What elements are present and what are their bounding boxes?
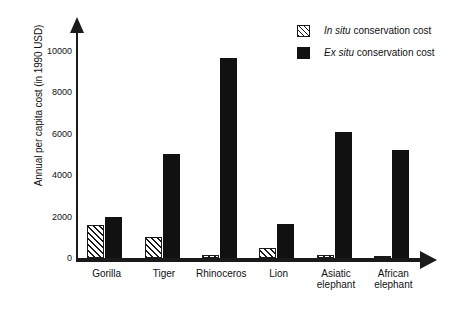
bar-group	[145, 30, 180, 258]
bar-ex-situ	[105, 217, 122, 258]
hatched-swatch-icon	[297, 25, 310, 37]
legend-label-ex-situ-italic: Ex situ	[324, 47, 354, 58]
x-tick-label: Africanelephant	[355, 268, 432, 290]
bar-group	[202, 30, 237, 258]
bar-in-situ	[374, 256, 391, 258]
bar-in-situ	[317, 255, 334, 258]
y-tick-label: 10000	[30, 46, 72, 56]
legend-label-in-situ-rest: conservation cost	[351, 25, 432, 36]
bar-in-situ	[202, 255, 219, 258]
y-tick-label: 2000	[30, 212, 72, 222]
chart-legend: In situ conservation cost Ex situ conser…	[297, 22, 435, 66]
bar-in-situ	[87, 225, 104, 258]
legend-label-ex-situ: Ex situ conservation cost	[324, 47, 435, 58]
x-tick-label-line: elephant	[355, 279, 432, 290]
bar-ex-situ	[163, 154, 180, 258]
solid-swatch-icon	[297, 47, 310, 59]
bar-in-situ	[145, 237, 162, 258]
bar-ex-situ	[277, 224, 294, 258]
bar-ex-situ	[392, 150, 409, 258]
x-axis-line	[76, 258, 422, 262]
right-arrow-icon	[420, 251, 437, 269]
y-tick-label: 4000	[30, 170, 72, 180]
bar-group	[87, 30, 122, 258]
x-tick-label-line: African	[355, 268, 432, 279]
legend-item-in-situ: In situ conservation cost	[297, 22, 435, 39]
y-tick-label: 0	[30, 253, 72, 263]
legend-label-in-situ: In situ conservation cost	[324, 25, 431, 36]
legend-label-in-situ-italic: In situ	[324, 25, 351, 36]
y-tick-label: 6000	[30, 129, 72, 139]
bar-group	[259, 30, 294, 258]
bar-ex-situ	[335, 132, 352, 258]
legend-label-ex-situ-rest: conservation cost	[354, 47, 435, 58]
bar-in-situ	[259, 248, 276, 258]
bar-ex-situ	[220, 58, 237, 258]
bar-chart: Annual per capita cost (in 1990 USD) 100…	[0, 0, 468, 331]
y-axis-tick-labels: 1000080006000400020000	[24, 0, 72, 331]
legend-item-ex-situ: Ex situ conservation cost	[297, 44, 435, 61]
y-tick-label: 8000	[30, 87, 72, 97]
